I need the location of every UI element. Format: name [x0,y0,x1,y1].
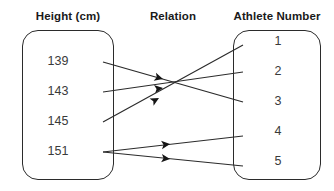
arrowhead-icon [150,94,161,105]
relation-line [103,152,243,166]
column-heading-relation: Relation [140,10,206,22]
set-member-left-1: 143 [26,84,90,98]
set-member-right-2: 3 [248,94,308,108]
relation-line [103,62,243,102]
relation-line [103,45,243,122]
arrowhead-icon [161,154,170,163]
arrowhead-icon [154,73,164,83]
set-member-left-2: 145 [26,114,90,128]
relation-line [103,136,243,152]
relation-arrow-145-to-1 [103,45,243,122]
set-member-left-0: 139 [26,54,90,68]
arrowhead-icon [154,84,164,94]
set-member-right-0: 1 [248,34,308,48]
relation-arrow-151-to-4 [103,136,243,152]
set-member-right-1: 2 [248,64,308,78]
relation-diagram: Height (cm) Relation Athlete Number 1391… [0,0,334,191]
relation-arrow-151-to-5 [103,152,243,166]
set-member-left-3: 151 [26,144,90,158]
relation-arrow-143-to-2 [103,72,243,93]
set-member-right-4: 5 [248,154,308,168]
relation-line [103,72,243,92]
set-member-right-3: 4 [248,124,308,138]
relation-arrow-139-to-3 [103,62,243,102]
arrowhead-icon [161,140,170,149]
column-heading-athlete-number: Athlete Number [228,10,326,22]
column-heading-height: Height (cm) [22,10,114,22]
